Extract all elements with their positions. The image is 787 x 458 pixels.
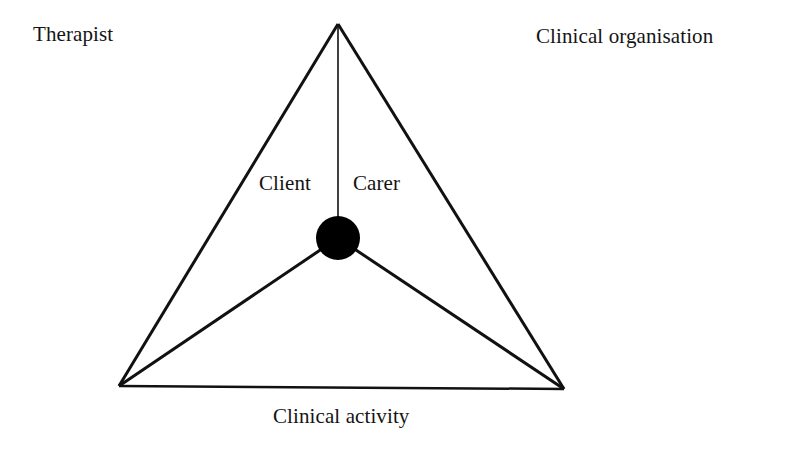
edge-left bbox=[119, 24, 338, 386]
spoke-bottom-right bbox=[338, 238, 564, 389]
label-carer: Carer bbox=[353, 171, 400, 196]
label-therapist: Therapist bbox=[33, 22, 113, 47]
edge-right bbox=[338, 24, 564, 389]
label-client: Client bbox=[259, 171, 311, 196]
center-node bbox=[316, 216, 360, 260]
label-clinical-activity: Clinical activity bbox=[273, 404, 409, 429]
spoke-bottom-left bbox=[119, 238, 338, 386]
label-clinical-organisation: Clinical organisation bbox=[536, 24, 713, 49]
edge-bottom bbox=[119, 386, 564, 389]
triangle-diagram bbox=[0, 0, 787, 458]
